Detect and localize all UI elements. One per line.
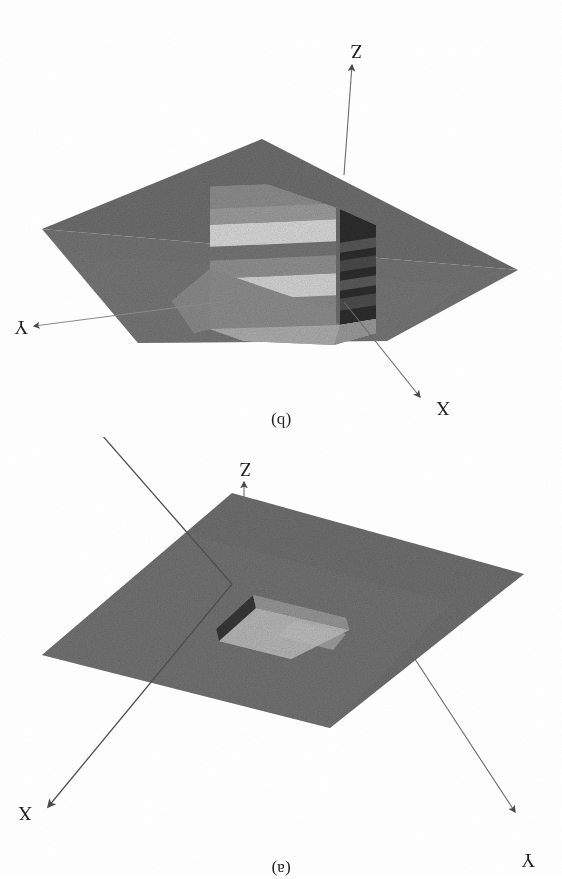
- panel-b-axis-label-x: X: [436, 397, 450, 419]
- panel-b-axis-label-y: Y: [14, 316, 28, 338]
- panel-a-axis-label-z: Z: [239, 458, 251, 480]
- panel-a-axis-label-x: X: [18, 802, 32, 824]
- panel-a: (a) Y X Z: [0, 437, 562, 874]
- panel-b-scene: [0, 0, 562, 437]
- panel-b-caption: (b): [251, 411, 311, 431]
- panel-a-scene: [0, 437, 562, 874]
- panel-b-axis-z-line: [344, 65, 352, 175]
- panel-a-axis-y-line: [392, 624, 515, 812]
- panel-a-caption: (a): [251, 859, 311, 879]
- panel-b-block-front-left-sliver: [336, 207, 340, 325]
- panel-b-block-end-face: [338, 209, 378, 325]
- panel-b-axis-label-z: Z: [350, 40, 362, 62]
- panel-a-axis-label-y: Y: [521, 849, 535, 871]
- panel-b-block-front-face: [206, 181, 342, 331]
- panel-b: (b) X Y Z: [0, 0, 562, 437]
